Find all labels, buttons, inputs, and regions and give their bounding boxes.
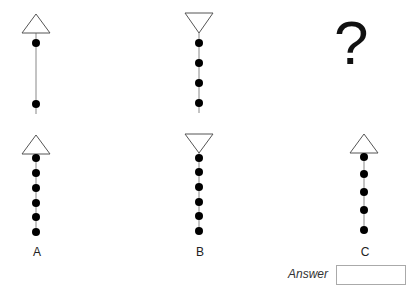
dot-icon: [195, 39, 203, 47]
dot-icon: [195, 212, 203, 220]
option-c-figure[interactable]: [350, 134, 378, 234]
up-triangle-icon: [350, 134, 378, 153]
dot-icon: [360, 153, 368, 161]
question-mark-placeholder: ?: [334, 12, 368, 74]
option-a-label[interactable]: A: [33, 245, 41, 259]
up-triangle-icon: [22, 135, 50, 154]
dot-icon: [32, 199, 40, 207]
down-triangle-icon: [185, 134, 213, 153]
dot-icon: [32, 184, 40, 192]
dot-icon: [32, 39, 40, 47]
answer-label: Answer: [288, 267, 328, 281]
dot-icon: [360, 170, 368, 178]
sequence-item-2: [185, 13, 213, 113]
option-b-label[interactable]: B: [196, 245, 204, 259]
dot-icon: [32, 154, 40, 162]
option-c-label[interactable]: C: [361, 245, 370, 259]
dot-icon: [195, 99, 203, 107]
dot-icon: [32, 228, 40, 236]
dot-icon: [32, 213, 40, 221]
dot-icon: [195, 183, 203, 191]
sequence-item-1: [22, 14, 50, 114]
dot-icon: [195, 168, 203, 176]
dot-icon: [195, 154, 203, 162]
dot-icon: [360, 226, 368, 234]
dot-icon: [195, 227, 203, 235]
option-a-figure[interactable]: [22, 135, 50, 236]
dot-icon: [195, 59, 203, 67]
option-b-figure[interactable]: [185, 134, 213, 235]
dot-icon: [360, 206, 368, 214]
answer-input[interactable]: [336, 265, 406, 285]
dot-icon: [195, 79, 203, 87]
dot-icon: [32, 100, 40, 108]
up-triangle-icon: [22, 14, 50, 33]
dot-icon: [360, 188, 368, 196]
dot-icon: [195, 198, 203, 206]
down-triangle-icon: [185, 13, 213, 33]
dot-icon: [32, 169, 40, 177]
